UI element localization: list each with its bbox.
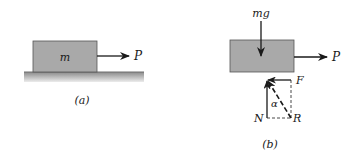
weight-label: mg <box>252 7 269 20</box>
caption-a: (a) <box>74 94 89 107</box>
angle-label: α <box>271 98 278 109</box>
normal-label: N <box>253 112 264 125</box>
free-body-diagram-figure: m P (a) mg P F α N R (b) <box>0 0 361 156</box>
friction-label: F <box>295 74 304 87</box>
caption-b: (b) <box>262 138 278 151</box>
ground-surface <box>24 72 144 82</box>
block-free-body <box>230 40 294 72</box>
panel-b: mg P F α N R (b) <box>230 7 341 151</box>
force-p-label-a: P <box>133 49 143 63</box>
force-p-label-b: P <box>331 50 341 64</box>
panel-a: m P (a) <box>24 41 144 107</box>
resultant-label: R <box>292 112 301 125</box>
mass-label: m <box>60 51 70 64</box>
